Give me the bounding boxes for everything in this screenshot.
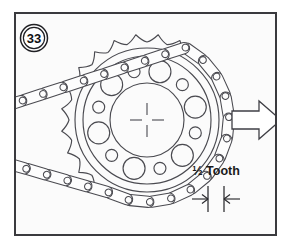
figure-root: ½ Tooth 33 <box>0 0 293 249</box>
chain-roller <box>0 103 7 112</box>
dimension-arrow-right <box>224 195 240 204</box>
sprocket-hub-circle <box>110 83 184 157</box>
chain-roller <box>1 159 9 167</box>
roller-chain <box>0 41 235 208</box>
chain-run-lower <box>0 41 191 120</box>
sprocket-hole-small <box>106 149 118 161</box>
chain-run-upper <box>0 133 114 199</box>
chain-link <box>0 94 28 114</box>
half-tooth-label: ½ Tooth <box>192 164 240 178</box>
center-crosshair-mark <box>130 103 164 137</box>
chain-roller <box>167 195 175 203</box>
chain-link <box>0 151 11 170</box>
sprocket-hole-large <box>184 96 206 118</box>
chain-roller <box>146 198 153 205</box>
sprocket-hole-small <box>176 79 188 91</box>
sprocket-hole-small <box>189 127 201 139</box>
chain-link-plate <box>0 101 8 121</box>
chain-roller <box>222 92 230 100</box>
chain-link-plate <box>0 151 11 170</box>
sprocket-hole-small <box>154 162 166 174</box>
chain-link <box>0 101 8 121</box>
sprocket-hole-large <box>88 122 110 144</box>
chain-sprocket-illustration: ½ Tooth 33 <box>0 0 293 249</box>
sprocket-hole-small <box>93 101 105 113</box>
dimension-arrow-left <box>192 195 208 204</box>
chain-link <box>0 156 31 175</box>
chain-roller <box>1 159 9 167</box>
right-arrow-icon <box>232 101 281 139</box>
sprocket-hole-large <box>171 144 193 166</box>
sprocket-hole-large <box>123 157 145 179</box>
chain-roller <box>0 103 7 112</box>
figure-number-badge: 33 <box>21 25 48 52</box>
badge-number-text: 33 <box>27 31 41 46</box>
